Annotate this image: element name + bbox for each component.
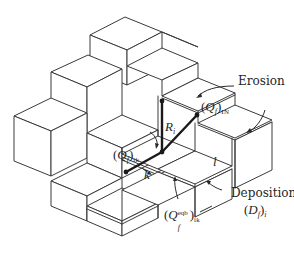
column-far-left [14,98,87,176]
r-var: R [165,119,173,134]
q-eqb-sub: ik [194,216,200,224]
q-ik-label: (Qf)ik [113,148,139,164]
erosion-label: Erosion [238,75,285,87]
q-ik-sub: ik [133,156,139,164]
r-sub: i [173,127,175,136]
q-in-var: Q [205,99,214,114]
dep-sub-i: i [264,210,266,219]
q-eqb-sub-f: f [178,224,180,232]
k-label: k [144,168,150,181]
q-eqb-sup: eqb [178,210,188,217]
r-label: Ri [165,120,175,136]
dep-var: D [248,202,257,217]
q-eqb-var: Q [168,207,177,222]
q-in-label: (Qf)IN [201,100,229,116]
q-ik-var: Q [117,147,126,162]
q-in-sub: IN [221,108,229,116]
q-eqb-label: (Qeqbf)ik [164,208,200,224]
l-label: l [213,155,217,168]
deposition-label: Deposition [231,187,294,199]
deposition-symbol: (Df)i [244,203,267,219]
